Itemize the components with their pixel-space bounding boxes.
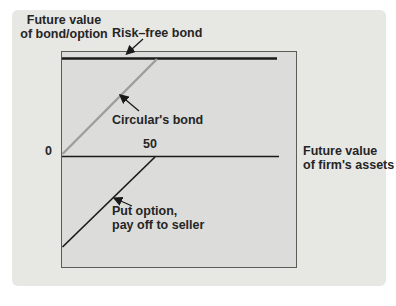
put-option-label-line1: Put option, xyxy=(112,204,204,218)
x-axis-label-line2: of firm's assets xyxy=(303,158,394,172)
x-axis-label: Future value of firm's assets xyxy=(303,144,394,172)
put-option-label: Put option, pay off to seller xyxy=(112,204,204,232)
y-axis-label: Future value of bond/option xyxy=(12,13,116,41)
y-axis-label-line1: Future value xyxy=(12,13,116,27)
put-option-label-line2: pay off to seller xyxy=(112,218,204,232)
risk-free-annotation-arrow xyxy=(127,39,144,54)
origin-tick-label: 0 xyxy=(38,144,52,158)
y-axis-label-line2: of bond/option xyxy=(12,27,116,41)
figure-page: { "colors": { "panel_bg": "#e7e7e4", "pl… xyxy=(0,0,396,306)
circulars-annotation-arrow xyxy=(120,95,139,111)
x-axis-label-line1: Future value xyxy=(303,144,394,158)
risk-free-bond-label: Risk–free bond xyxy=(112,26,202,40)
x-tick-50-label: 50 xyxy=(143,137,157,151)
circulars-bond-label: Circular's bond xyxy=(112,113,203,127)
put-option-line xyxy=(63,157,156,247)
